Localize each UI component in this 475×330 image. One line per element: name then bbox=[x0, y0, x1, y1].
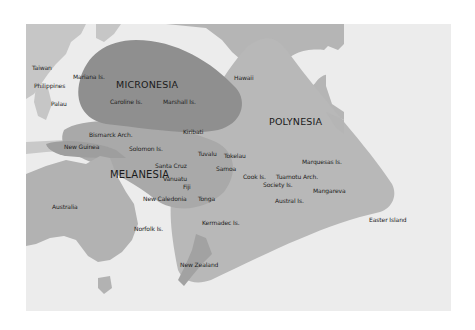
label-tonga: Tonga bbox=[198, 196, 215, 202]
label-mariana: Mariana Is. bbox=[73, 74, 105, 80]
label-marshall: Marshall Is. bbox=[163, 99, 196, 105]
label-easter: Easter Island bbox=[369, 217, 407, 223]
label-austral: Austral Is. bbox=[275, 198, 304, 204]
land-philippines bbox=[34, 86, 52, 120]
label-palau: Palau bbox=[51, 101, 67, 107]
label-mangareva: Mangareva bbox=[313, 188, 346, 194]
pacific-map: MICRONESIA POLYNESIA MELANESIA Taiwan Ph… bbox=[26, 24, 451, 311]
label-taiwan: Taiwan bbox=[32, 65, 52, 71]
land-tasmania bbox=[98, 276, 112, 294]
label-cook: Cook Is. bbox=[243, 174, 266, 180]
map-graphics bbox=[26, 24, 451, 311]
label-santa-cruz: Santa Cruz bbox=[155, 163, 187, 169]
label-norfolk: Norfolk Is. bbox=[134, 226, 163, 232]
label-hawaii: Hawaii bbox=[234, 75, 254, 81]
label-new-caledonia: New Caledonia bbox=[143, 196, 187, 202]
region-label-melanesia: MELANESIA bbox=[110, 170, 169, 180]
label-new-zealand: New Zealand bbox=[180, 262, 218, 268]
label-australia: Australia bbox=[52, 204, 78, 210]
region-label-polynesia: POLYNESIA bbox=[269, 117, 322, 127]
label-kermadec: Kermadec Is. bbox=[202, 220, 240, 226]
label-marquesas: Marquesas Is. bbox=[302, 159, 342, 165]
label-fiji: Fiji bbox=[183, 184, 191, 190]
label-society: Society Is. bbox=[263, 182, 293, 188]
label-caroline: Caroline Is. bbox=[110, 99, 142, 105]
label-kiribati: Kiribati bbox=[183, 129, 203, 135]
label-philippines: Philippines bbox=[34, 83, 65, 89]
label-vanuatu: Vanuatu bbox=[163, 176, 187, 182]
label-new-guinea: New Guinea bbox=[64, 144, 99, 150]
region-label-micronesia: MICRONESIA bbox=[116, 80, 178, 90]
label-bismarck: Bismarck Arch. bbox=[89, 132, 133, 138]
land-japan bbox=[96, 24, 121, 42]
label-tuvalu: Tuvalu bbox=[198, 151, 217, 157]
label-tokelau: Tokelau bbox=[224, 153, 246, 159]
label-solomon: Solomon Is. bbox=[129, 146, 163, 152]
label-tuamotu: Tuamotu Arch. bbox=[276, 174, 318, 180]
label-samoa: Samoa bbox=[216, 166, 236, 172]
